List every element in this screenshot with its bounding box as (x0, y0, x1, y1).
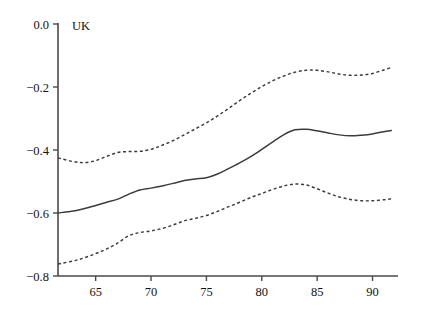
series-upper-confidence-band (58, 67, 391, 162)
y-tick-label: −0.6 (26, 207, 49, 221)
chart-container: 0.0−0.2−0.4−0.6−0.8 657075808590 UK (0, 0, 428, 317)
y-tick-label: 0.0 (33, 18, 49, 32)
x-tick-label: 75 (200, 285, 213, 299)
y-axis-ticks: 0.0−0.2−0.4−0.6−0.8 (26, 18, 58, 284)
chart-series-group (58, 67, 391, 264)
panel-label-uk: UK (72, 19, 90, 33)
series-point-estimate (58, 129, 391, 213)
x-tick-label: 90 (366, 285, 379, 299)
x-axis-ticks: 657075808590 (89, 276, 378, 299)
y-tick-label: −0.2 (26, 81, 49, 95)
x-tick-label: 80 (256, 285, 269, 299)
y-tick-label: −0.8 (26, 270, 49, 284)
series-lower-confidence-band (58, 184, 391, 264)
y-tick-label: −0.4 (26, 144, 49, 158)
x-tick-label: 70 (145, 285, 158, 299)
x-tick-label: 65 (89, 285, 102, 299)
x-tick-label: 85 (311, 285, 324, 299)
uk-line-chart: 0.0−0.2−0.4−0.6−0.8 657075808590 UK (0, 0, 428, 317)
